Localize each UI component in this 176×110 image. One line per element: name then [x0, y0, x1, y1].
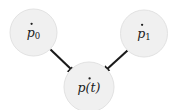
node-p-dot-1-subscript: 1 — [145, 32, 150, 42]
node-p-dot-t-base: p — [78, 80, 86, 95]
edge-p0-to-pt-line — [51, 50, 73, 71]
node-p-dot-0-base: p — [27, 25, 35, 40]
diagram-canvas: p0 p1 p(t) — [0, 0, 176, 110]
node-p-dot-t-label: p(t) — [78, 80, 101, 95]
node-p-dot-1-base: p — [137, 26, 145, 41]
node-p-dot-t-argument: (t) — [86, 80, 101, 95]
node-p-dot-t[interactable]: p(t) — [64, 62, 114, 110]
graph-figure: p0 p1 p(t) — [0, 0, 176, 110]
node-p-dot-0[interactable]: p0 — [10, 9, 57, 56]
edge-p1-to-pt-line — [106, 51, 128, 71]
node-p-dot-0-subscript: 0 — [35, 31, 40, 41]
node-p-dot-1[interactable]: p1 — [121, 10, 168, 57]
